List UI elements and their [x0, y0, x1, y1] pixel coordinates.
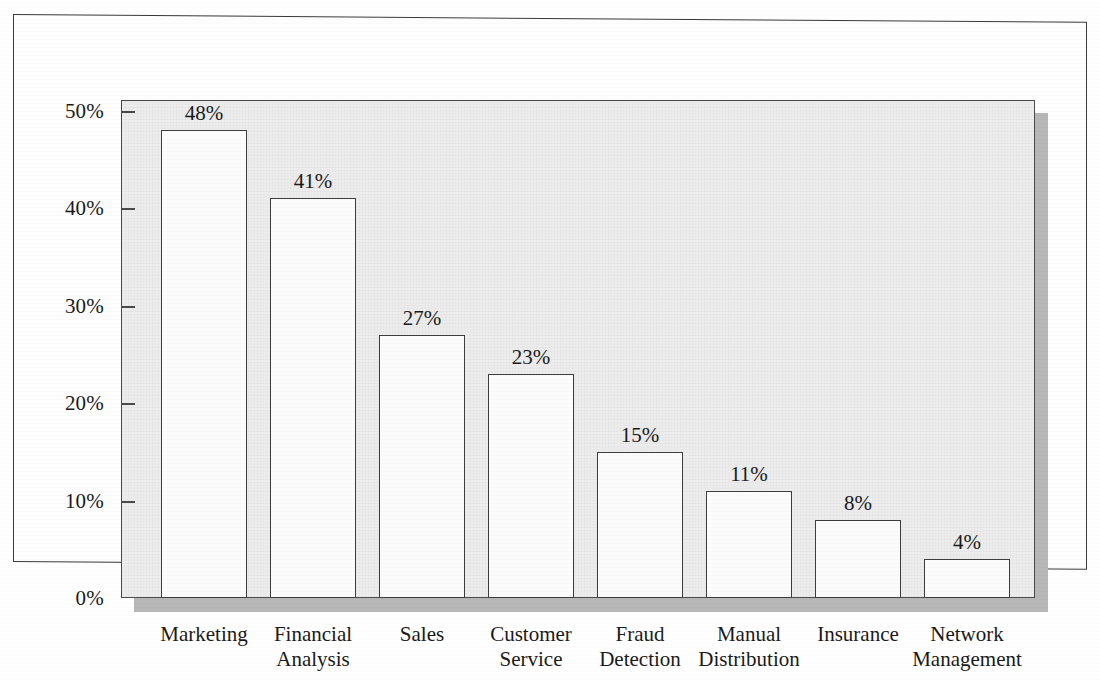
y-axis-tick [122, 306, 135, 308]
bar-value-label: 48% [141, 103, 267, 124]
y-axis-tick-label: 40% [42, 198, 104, 219]
bar[interactable] [161, 130, 247, 598]
bar-value-label: 4% [904, 532, 1030, 553]
x-axis-category-label: Network Management [897, 622, 1037, 672]
y-axis-tick-label: 20% [42, 393, 104, 414]
y-axis-tick [122, 208, 135, 210]
y-axis-tick [122, 403, 135, 405]
bar-value-label: 15% [577, 425, 703, 446]
y-axis-tick-label: 50% [42, 101, 104, 122]
bar[interactable] [706, 491, 792, 598]
bar-value-label: 23% [468, 347, 594, 368]
bar-value-label: 8% [795, 493, 921, 514]
bar[interactable] [815, 520, 901, 598]
bar[interactable] [924, 559, 1010, 598]
y-axis-labels: 0%10%20%30%40%50% [38, 0, 104, 680]
bar-value-label: 41% [250, 171, 376, 192]
y-axis-tick [122, 111, 135, 113]
bar-value-label: 11% [686, 464, 812, 485]
bar-value-label: 27% [359, 308, 485, 329]
baseline-shadow [134, 598, 1048, 612]
y-axis-tick [122, 501, 135, 503]
y-axis-tick-label: 30% [42, 296, 104, 317]
y-axis-tick-label: 0% [42, 588, 104, 609]
bar[interactable] [597, 452, 683, 598]
y-axis-tick-label: 10% [42, 491, 104, 512]
bar[interactable] [488, 374, 574, 598]
bar[interactable] [270, 198, 356, 598]
chart-page: 0%10%20%30%40%50% 48%41%27%23%15%11%8%4%… [0, 0, 1100, 680]
bar[interactable] [379, 335, 465, 598]
